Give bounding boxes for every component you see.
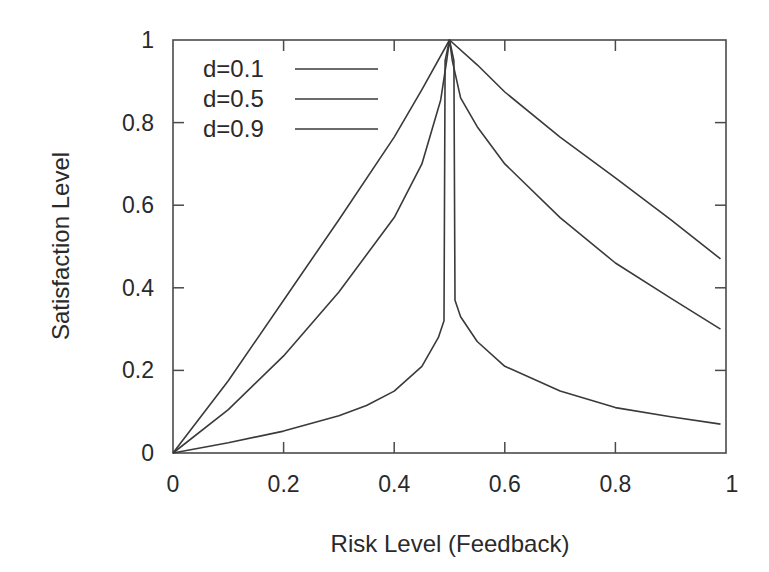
y-tick-label: 0.4	[122, 275, 154, 301]
y-tick-label: 0	[141, 440, 154, 466]
x-tick-label: 0.8	[599, 471, 631, 497]
line-chart: 00.20.40.60.81 00.20.40.60.81 Risk Level…	[0, 0, 769, 572]
legend-label: d=0.1	[203, 55, 264, 82]
y-tick-label: 1	[141, 27, 154, 53]
y-tick-label: 0.6	[122, 192, 154, 218]
x-tick-label: 0	[167, 471, 180, 497]
y-tick-label: 0.2	[122, 357, 154, 383]
x-tick-label: 1	[726, 471, 739, 497]
x-axis-label: Risk Level (Feedback)	[331, 530, 570, 557]
x-tick-label: 0.4	[378, 471, 410, 497]
legend-item-d05: d=0.5	[203, 85, 378, 112]
legend-item-d01: d=0.1	[203, 55, 378, 82]
x-tick-label: 0.2	[268, 471, 300, 497]
legend-label: d=0.5	[203, 85, 264, 112]
legend-label: d=0.9	[203, 115, 264, 142]
y-tick-label: 0.8	[122, 110, 154, 136]
legend: d=0.1 d=0.5 d=0.9	[203, 55, 378, 142]
x-tick-label: 0.6	[489, 471, 521, 497]
legend-item-d09: d=0.9	[203, 115, 378, 142]
y-axis-label: Satisfaction Level	[47, 152, 74, 340]
